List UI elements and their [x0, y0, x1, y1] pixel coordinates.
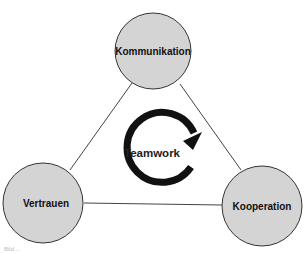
caption: Bild ...: [4, 246, 21, 252]
node-label-kooperation: Kooperation: [233, 201, 292, 212]
node-label-kommunikation: Kommunikation: [115, 46, 191, 57]
center-label-teamwork: Teamwork: [124, 147, 181, 159]
edge-kommunikation-vertrauen: [70, 83, 132, 170]
node-label-vertrauen: Vertrauen: [23, 198, 69, 209]
node-kooperation: Kooperation: [222, 166, 302, 246]
edge-vertrauen-kooperation: [84, 203, 222, 205]
node-kommunikation: Kommunikation: [115, 13, 191, 89]
teamwork-diagram: Kommunikation Vertrauen Kooperation Team…: [0, 0, 306, 253]
node-vertrauen: Vertrauen: [3, 163, 83, 243]
diagram-canvas: Kommunikation Vertrauen Kooperation Team…: [0, 0, 306, 253]
